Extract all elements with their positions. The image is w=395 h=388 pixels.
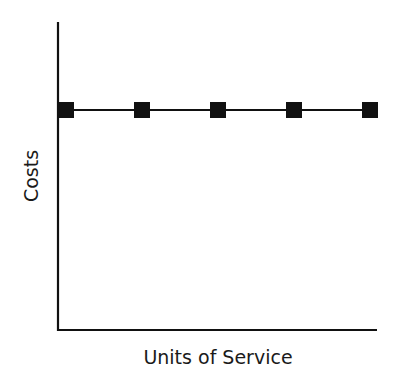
square-marker: [362, 102, 378, 118]
chart: Units of Service Costs: [0, 0, 395, 388]
y-axis-label: Costs: [20, 150, 42, 202]
square-marker: [210, 102, 226, 118]
square-marker: [134, 102, 150, 118]
square-marker: [286, 102, 302, 118]
square-marker: [58, 102, 74, 118]
x-axis-label: Units of Service: [143, 346, 292, 368]
data-series: [58, 102, 378, 118]
